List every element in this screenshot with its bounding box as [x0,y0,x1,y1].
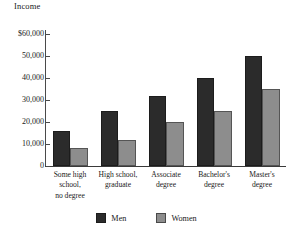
legend-item-men: Men [96,213,126,223]
y-axis-tick-label: 30,000 [2,96,44,104]
legend-item-women: Women [156,213,196,223]
legend-label-men: Men [111,214,126,223]
x-axis-line [45,166,286,167]
y-axis-tick [46,166,50,167]
legend-swatch-men-icon [96,213,106,223]
y-axis-title: Income [14,1,40,11]
plot-area [46,34,286,166]
y-axis-tick-label: $60,000 [2,30,44,38]
y-axis-tick-label: 10,000 [2,140,44,148]
bar-group [238,34,286,166]
bar-men [53,131,71,166]
bar-women [262,89,280,166]
bar-women [70,148,88,166]
bar-group [46,34,94,166]
bar-group [142,34,190,166]
bar-group [94,34,142,166]
bar-men [197,78,215,166]
x-axis-category-labels: Some high school, no degreeHigh school, … [46,170,286,216]
bar-men [149,96,167,166]
legend-swatch-women-icon [156,213,166,223]
y-axis-tick-label: 0 [2,162,44,170]
y-axis-tick-label: 40,000 [2,74,44,82]
legend-label-women: Women [171,214,196,223]
bar-men [245,56,263,166]
bar-women [118,140,136,166]
y-axis-tick-label: 50,000 [2,52,44,60]
bar-men [101,111,119,166]
bar-women [166,122,184,166]
y-axis-tick-label: 20,000 [2,118,44,126]
income-by-education-bar-chart: Income 010,00020,00030,00040,00050,000$6… [0,0,293,235]
x-axis-category-label: Master's degree [234,170,290,191]
bar-group [190,34,238,166]
bar-women [214,111,232,166]
legend: Men Women [0,213,293,223]
